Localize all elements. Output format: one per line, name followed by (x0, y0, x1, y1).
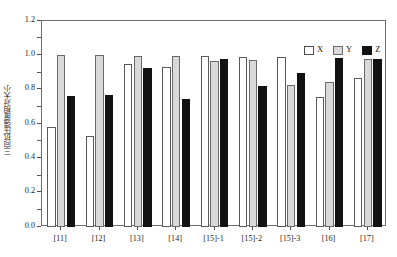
bar (47, 127, 55, 227)
x-tick-label: [17] (360, 233, 374, 244)
y-tick-label: 0.4 (25, 152, 35, 162)
x-tick-label: [15]-1 (203, 233, 223, 244)
bar (57, 55, 65, 227)
bar (354, 78, 362, 227)
legend-entry-z: Z (362, 45, 380, 55)
y-tick-label: 0.0 (25, 221, 35, 231)
x-tick-label: [15]-3 (280, 233, 300, 244)
legend-swatch-y-icon (333, 46, 343, 55)
legend-swatch-x-icon (304, 46, 314, 55)
bar (95, 55, 103, 227)
legend-label-x: X (317, 45, 323, 55)
x-tick-label: [13] (130, 233, 144, 244)
bar (277, 57, 285, 227)
legend-label-z: Z (375, 45, 380, 55)
bar (325, 82, 333, 227)
bar (124, 64, 132, 227)
bar (210, 61, 218, 227)
bar (249, 60, 257, 227)
bar (373, 59, 381, 227)
x-tick-label: [16] (322, 233, 336, 244)
bar (172, 56, 180, 227)
bar (67, 96, 75, 227)
bar (134, 56, 142, 227)
bar (239, 57, 247, 227)
y-tick-label: 0.8 (25, 83, 35, 93)
x-tick-label: [14] (168, 233, 182, 244)
legend-swatch-z-icon (362, 46, 372, 55)
bar (86, 136, 94, 227)
legend-entry-y: Y (333, 45, 352, 55)
y-axis-title: 三向抗压强度相对大小 (4, 56, 20, 186)
bar (105, 95, 113, 227)
chart-legend: X Y Z (304, 43, 380, 57)
bar-chart: 三向抗压强度相对大小 0.00.20.40.60.81.01.2 [11][12… (0, 0, 397, 257)
y-tick-label: 1.2 (25, 15, 35, 25)
bar (182, 99, 190, 227)
bar (287, 85, 295, 227)
x-tick-label: [15]-2 (242, 233, 262, 244)
bar (258, 86, 266, 227)
bar (364, 59, 372, 227)
bar (335, 58, 343, 227)
plot-area: X Y Z (41, 20, 386, 226)
y-tick-label: 1.0 (25, 49, 35, 59)
bar (316, 97, 324, 227)
x-tick-label: [11] (53, 233, 66, 244)
bar (201, 56, 209, 227)
legend-entry-x: X (304, 45, 323, 55)
legend-label-y: Y (346, 45, 352, 55)
bar (297, 73, 305, 227)
y-tick-label: 0.6 (25, 118, 35, 128)
bar (162, 67, 170, 227)
chart-title (0, 1, 397, 11)
x-tick-label: [12] (92, 233, 106, 244)
bar (220, 59, 228, 227)
bar (143, 68, 151, 227)
y-tick-label: 0.2 (25, 186, 35, 196)
